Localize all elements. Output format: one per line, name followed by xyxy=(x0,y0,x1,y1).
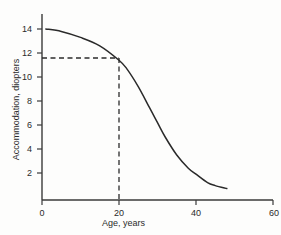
x-tick-label-40: 40 xyxy=(187,209,205,218)
y-axis-ticks xyxy=(37,29,42,173)
x-tick-label-20: 20 xyxy=(110,209,128,218)
x-axis-title: Age, years xyxy=(102,219,145,228)
chart-plot-area xyxy=(0,0,281,235)
accommodation-curve xyxy=(46,29,227,189)
x-tick-label-60: 60 xyxy=(265,209,281,218)
x-tick-label-0: 0 xyxy=(33,209,51,218)
accommodation-age-chart: 14 12 10 8 6 4 2 0 20 40 60 Age, years A… xyxy=(0,0,281,235)
x-axis-ticks xyxy=(42,200,273,205)
y-tick-label-14: 14 xyxy=(16,25,32,34)
y-axis-title: Accommodation, diopters xyxy=(12,45,21,175)
